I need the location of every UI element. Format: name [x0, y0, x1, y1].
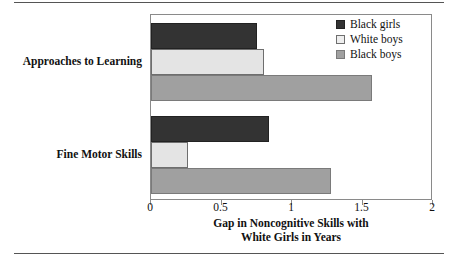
legend-swatch-icon	[336, 50, 345, 59]
category-label-approaches-to-learning: Approaches to Learning	[0, 55, 142, 67]
bar-fine-motor-skills-white-boys	[151, 142, 188, 168]
legend-label: Black girls	[350, 18, 400, 30]
legend-item-black-boys[interactable]: Black boys	[336, 47, 428, 61]
category-label-fine-motor-skills: Fine Motor Skills	[0, 148, 142, 160]
bar-fine-motor-skills-black-boys	[151, 168, 331, 194]
figure: Approaches to LearningFine Motor Skills …	[0, 0, 458, 265]
legend-label: White boys	[350, 33, 403, 45]
x-tick-label-2: 2	[412, 201, 452, 214]
bar-approaches-to-learning-white-boys	[151, 49, 264, 75]
legend-swatch-icon	[336, 35, 345, 44]
x-tick-label-1: 1	[271, 201, 311, 214]
legend-item-white-boys[interactable]: White boys	[336, 32, 428, 46]
figure-rule-top	[14, 2, 444, 3]
x-tick-label-0: 0	[130, 201, 170, 214]
x-axis-title-line-1: Gap in Noncognitive Skills with	[150, 216, 432, 230]
x-axis-title-line-2: White Girls in Years	[150, 230, 432, 244]
legend-label: Black boys	[350, 48, 401, 60]
x-tick-label-0.5: 0.5	[201, 201, 241, 214]
x-tick-label-1.5: 1.5	[342, 201, 382, 214]
bar-approaches-to-learning-black-boys	[151, 75, 372, 101]
legend-item-black-girls[interactable]: Black girls	[336, 17, 428, 31]
figure-rule-bottom	[14, 253, 444, 254]
bar-approaches-to-learning-black-girls	[151, 23, 257, 49]
legend: Black girlsWhite boysBlack boys	[336, 17, 428, 62]
bar-fine-motor-skills-black-girls	[151, 116, 269, 142]
legend-swatch-icon	[336, 20, 345, 29]
x-axis-title: Gap in Noncognitive Skills with White Gi…	[150, 216, 432, 244]
